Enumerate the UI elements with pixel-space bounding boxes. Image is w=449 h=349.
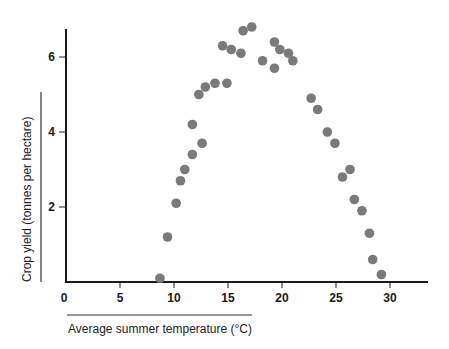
x-tick-label: 10: [167, 291, 181, 305]
data-point: [201, 82, 211, 92]
data-point: [275, 45, 285, 55]
data-point: [163, 232, 173, 242]
data-point: [180, 165, 190, 175]
data-point: [288, 56, 298, 66]
data-point: [270, 63, 280, 73]
data-point: [238, 26, 248, 36]
data-point: [210, 78, 220, 88]
data-point: [222, 78, 232, 88]
scatter-chart: 246 051015202530 Crop yield (tonnes per …: [0, 0, 449, 349]
x-tick-label: 25: [329, 291, 343, 305]
data-point: [357, 206, 367, 216]
data-point: [377, 270, 387, 280]
x-tick-label: 15: [221, 291, 235, 305]
data-point: [365, 228, 375, 238]
data-point: [258, 56, 268, 66]
data-point: [155, 273, 165, 283]
data-point: [247, 22, 257, 32]
y-tick-label: 2: [48, 200, 55, 214]
y-axis-ticks: 246: [48, 50, 66, 214]
data-point: [176, 176, 186, 186]
data-point: [338, 172, 348, 182]
data-point: [350, 195, 360, 205]
x-axis-ticks: 051015202530: [61, 282, 397, 305]
data-point: [368, 255, 378, 265]
x-axis-title: Average summer temperature (°C): [68, 322, 252, 336]
data-point: [330, 138, 340, 148]
data-point: [226, 45, 236, 55]
data-point: [236, 48, 246, 58]
x-tick-label: 5: [117, 291, 124, 305]
x-tick-label: 30: [383, 291, 397, 305]
y-axis-title: Crop yield (tonnes per hectare): [20, 117, 34, 282]
data-point: [218, 41, 228, 51]
data-point: [323, 127, 333, 137]
x-tick-label: 0: [61, 291, 68, 305]
data-point: [188, 150, 198, 160]
data-point: [313, 105, 323, 115]
data-point: [197, 138, 207, 148]
x-tick-label: 20: [275, 291, 289, 305]
data-points: [155, 22, 386, 283]
y-tick-label: 6: [48, 50, 55, 64]
y-tick-label: 4: [48, 125, 55, 139]
data-point: [188, 120, 198, 130]
data-point: [194, 90, 204, 100]
data-point: [306, 93, 316, 103]
data-point: [345, 165, 355, 175]
data-point: [171, 198, 181, 208]
